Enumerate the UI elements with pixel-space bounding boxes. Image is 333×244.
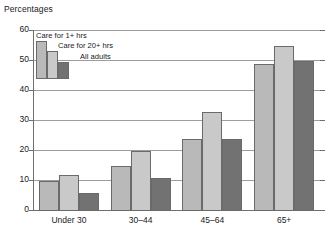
y-axis-tick-right xyxy=(320,120,325,121)
bar-chart: Percentages 0102030405060 Under 3030–444… xyxy=(0,0,333,244)
y-tick-label: 10 xyxy=(5,174,29,184)
y-axis-tick-right xyxy=(320,30,325,31)
bar xyxy=(254,64,274,211)
y-axis-tick-right xyxy=(320,180,325,181)
legend-label-care-20-hrs: Care for 20+ hrs xyxy=(58,41,113,50)
bar xyxy=(131,151,151,211)
x-tick-label: 30–44 xyxy=(105,215,177,225)
x-tick-label: Under 30 xyxy=(33,215,105,225)
bar-group xyxy=(182,31,242,211)
y-tick-label: 0 xyxy=(5,204,29,214)
bar xyxy=(151,178,171,211)
legend-swatch xyxy=(58,62,69,79)
x-tick-label: 65+ xyxy=(248,215,320,225)
legend-swatch xyxy=(47,51,58,79)
bar xyxy=(222,139,242,211)
y-tick-label: 40 xyxy=(5,84,29,94)
y-axis-tick-right xyxy=(320,150,325,151)
x-tick-label: 45–64 xyxy=(177,215,249,225)
bar xyxy=(294,61,314,211)
y-tick-label: 60 xyxy=(5,24,29,34)
y-tick-label: 50 xyxy=(5,54,29,64)
legend-label-all-adults: All adults xyxy=(80,52,111,61)
y-axis-tick-right xyxy=(320,60,325,61)
bar-group xyxy=(111,31,171,211)
y-axis-tick-right xyxy=(320,90,325,91)
bar-groups xyxy=(33,30,320,211)
bar xyxy=(182,139,202,211)
legend-label-care-1-hrs: Care for 1+ hrs xyxy=(36,31,87,40)
bar xyxy=(274,46,294,211)
bar xyxy=(59,175,79,211)
bar-group xyxy=(254,31,314,211)
y-tick-label: 30 xyxy=(5,114,29,124)
y-axis-tick-labels: 0102030405060 xyxy=(0,0,29,244)
y-axis-tick-right xyxy=(320,210,325,211)
bar xyxy=(111,166,131,211)
bar xyxy=(39,181,59,211)
legend-swatch xyxy=(36,41,47,79)
y-tick-label: 20 xyxy=(5,144,29,154)
bar xyxy=(202,112,222,211)
bar xyxy=(79,193,99,211)
